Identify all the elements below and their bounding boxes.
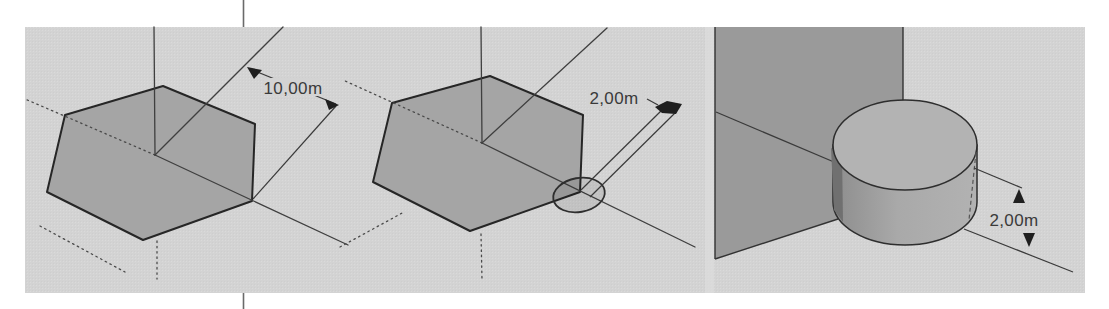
- panel-seam: [705, 27, 714, 293]
- cylinder-top-face: [833, 100, 977, 190]
- figure-canvas: 10,00m 2,00m 2,00m: [0, 0, 1109, 309]
- height-dimension-label: 2,00m: [989, 211, 1038, 230]
- circle-radius-dimension-label: 2,00m: [589, 89, 638, 108]
- scanned-figure: 10,00m 2,00m 2,00m: [0, 0, 1109, 309]
- radius-dimension-label: 10,00m: [263, 79, 322, 98]
